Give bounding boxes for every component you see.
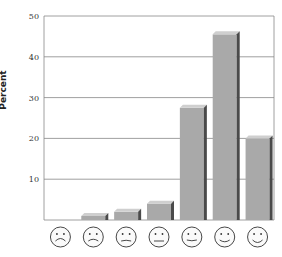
bar-top <box>180 105 207 108</box>
chart-canvas: 1020304050 <box>0 0 282 257</box>
y-axis-label: Percent <box>0 60 12 120</box>
slightly-happy-face-icon <box>182 227 202 247</box>
bar <box>114 212 138 220</box>
very-happy-face-icon <box>248 227 268 247</box>
bar-side <box>270 135 273 220</box>
y-tick-label: 20 <box>29 134 39 143</box>
y-tick-label: 40 <box>29 53 39 62</box>
y-tick-label: 10 <box>29 175 39 184</box>
bar-side <box>171 201 174 220</box>
sad-face-icon <box>83 227 103 247</box>
bar-top <box>246 135 273 138</box>
slightly-sad-face-icon <box>116 227 136 247</box>
bar-chart: 1020304050 Percent <box>0 0 282 257</box>
bar-top <box>213 31 240 34</box>
bar-top <box>81 213 108 216</box>
bar <box>213 34 237 220</box>
bar-top <box>147 201 174 204</box>
happy-face-icon <box>215 227 235 247</box>
bar-side <box>204 105 207 220</box>
bar-side <box>237 31 240 220</box>
very-sad-face-icon <box>50 227 70 247</box>
bar-top <box>114 209 141 212</box>
bar <box>147 204 171 220</box>
bar <box>81 216 105 220</box>
y-tick-label: 50 <box>29 12 39 21</box>
neutral-face-icon <box>149 227 169 247</box>
y-tick-label: 30 <box>29 94 39 103</box>
bar <box>246 138 270 220</box>
bar <box>180 108 204 220</box>
